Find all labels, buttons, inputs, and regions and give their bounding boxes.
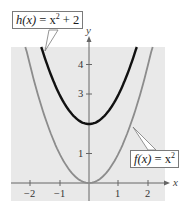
x-tick-label: −2 — [24, 188, 35, 199]
x-tick-label: 1 — [115, 188, 120, 199]
y-tick-label: 3 — [78, 88, 83, 99]
h-function-label: h(x) = x2 + 2 — [12, 11, 83, 29]
x-axis-label: x — [173, 176, 178, 188]
f-fn: f(x) — [134, 152, 151, 166]
h-fn: h(x) — [16, 13, 36, 27]
h-eq: = x — [36, 13, 56, 27]
f-function-label: f(x) = x2 — [130, 150, 179, 168]
y-tick-label: 4 — [78, 59, 83, 70]
x-tick-label: 2 — [145, 188, 150, 199]
f-eq: = x — [151, 152, 171, 166]
x-tick-label: −1 — [54, 188, 65, 199]
h-tail: + 2 — [60, 13, 80, 27]
f-exp: 2 — [171, 151, 175, 160]
y-tick-label: 1 — [78, 148, 83, 159]
x-axis-arrow-icon — [164, 181, 170, 186]
y-axis-label: y — [86, 24, 91, 36]
graph — [0, 0, 191, 213]
y-axis-arrow-icon — [87, 36, 92, 42]
